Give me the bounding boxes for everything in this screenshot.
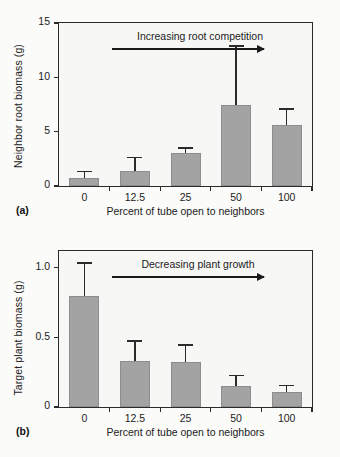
x-axis-caption-a: Percent of tube open to neighbors: [58, 205, 313, 217]
bar: [120, 361, 150, 407]
x-axis-tick: [311, 186, 312, 191]
y-axis-tick: 0: [54, 185, 59, 186]
x-axis-tick: [261, 407, 262, 412]
x-axis-tick-label: 50: [230, 412, 242, 424]
bar-slot: [69, 251, 99, 407]
x-axis-caption-b: Percent of tube open to neighbors: [58, 426, 313, 438]
x-axis-tick-label: 100: [278, 191, 296, 203]
y-axis-tick-label: 15: [38, 15, 50, 27]
error-bar-cap: [279, 385, 294, 387]
bar: [171, 153, 201, 186]
x-axis-tick-label: 0: [81, 191, 87, 203]
x-axis-tick-label: 100: [278, 412, 296, 424]
bar-slot: [120, 251, 150, 407]
y-axis-tick-label: 0: [44, 178, 50, 190]
x-axis-tick: [210, 186, 211, 191]
bar: [171, 362, 201, 407]
annotation-arrow-a: [112, 48, 264, 50]
x-axis-tick: [261, 186, 262, 191]
y-axis-tick: 0.5: [54, 337, 59, 338]
bar-slot: [221, 251, 251, 407]
figure-root: Neighbor root biomass (g) 051015012.5255…: [0, 0, 340, 457]
error-bar-cap: [127, 157, 142, 159]
bar-slot: [171, 251, 201, 407]
error-bar-cap: [77, 171, 92, 173]
y-axis-tick-label: 0.5: [35, 330, 50, 342]
y-axis-title-b-wrapper: Target plant biomass (g): [12, 250, 28, 426]
y-axis-tick-label: 10: [38, 70, 50, 82]
error-bar-line: [286, 110, 288, 125]
bar: [120, 171, 150, 186]
y-axis-title-a-wrapper: Neighbor root biomass (g): [12, 18, 28, 194]
y-axis-tick: 1.0: [54, 267, 59, 268]
panel-b: Target plant biomass (g) 00.51.0012.5255…: [0, 228, 340, 457]
error-bar-cap: [127, 340, 142, 342]
y-axis-tick: 15: [54, 22, 59, 23]
x-axis-tick: [311, 407, 312, 412]
x-axis-tick-label: 25: [180, 191, 192, 203]
error-bar-cap: [77, 262, 92, 264]
annotation-label-a: Increasing root competition: [137, 30, 263, 42]
bar: [69, 178, 99, 186]
panel-letter-a: (a): [16, 204, 29, 216]
error-bar-line: [185, 346, 187, 363]
y-axis-tick-label: 5: [44, 124, 50, 136]
annotation-label-b: Decreasing plant growth: [141, 258, 254, 270]
error-bar-cap: [178, 344, 193, 346]
x-axis-tick-label: 12.5: [125, 412, 145, 424]
error-bar-line: [134, 158, 136, 170]
panel-letter-b: (b): [16, 425, 29, 437]
y-axis-tick: 10: [54, 77, 59, 78]
error-bar-cap: [229, 375, 244, 377]
x-axis-tick: [109, 186, 110, 191]
bar-slot: [272, 251, 302, 407]
error-bar-line: [185, 149, 187, 153]
x-axis-tick: [210, 407, 211, 412]
error-bar-line: [235, 376, 237, 386]
x-axis-tick-label: 12.5: [125, 191, 145, 203]
y-axis-tick-label: 1.0: [35, 260, 50, 272]
x-axis-tick-label: 0: [81, 412, 87, 424]
x-axis-tick: [160, 186, 161, 191]
bar: [221, 105, 251, 187]
y-axis-tick: 0: [54, 406, 59, 407]
error-bar-cap: [279, 108, 294, 110]
bar-slot: [69, 23, 99, 186]
panel-a: Neighbor root biomass (g) 051015012.5255…: [0, 0, 340, 228]
x-axis-tick-label: 50: [230, 191, 242, 203]
plot-area-a: 051015012.52550100: [58, 22, 313, 187]
error-bar-line: [84, 264, 86, 296]
y-axis-tick-label: 0: [44, 399, 50, 411]
error-bar-line: [134, 342, 136, 362]
error-bar-line: [84, 172, 86, 177]
annotation-arrow-b: [112, 276, 264, 278]
bar: [272, 392, 302, 407]
y-axis-tick: 5: [54, 131, 59, 132]
x-axis-tick: [109, 407, 110, 412]
bar: [69, 296, 99, 407]
x-axis-tick: [160, 407, 161, 412]
plot-area-b: 00.51.0012.52550100: [58, 250, 313, 408]
bar-group-b: 00.51.0012.52550100: [59, 251, 312, 407]
x-axis-tick-label: 25: [180, 412, 192, 424]
bar: [272, 125, 302, 186]
error-bar-line: [235, 47, 237, 105]
y-axis-title-b: Target plant biomass (g): [12, 250, 28, 426]
error-bar-line: [286, 386, 288, 392]
error-bar-cap: [178, 147, 193, 149]
y-axis-title-a: Neighbor root biomass (g): [12, 18, 28, 194]
error-bar-cap: [229, 45, 244, 47]
bar-slot: [272, 23, 302, 186]
bar: [221, 386, 251, 407]
